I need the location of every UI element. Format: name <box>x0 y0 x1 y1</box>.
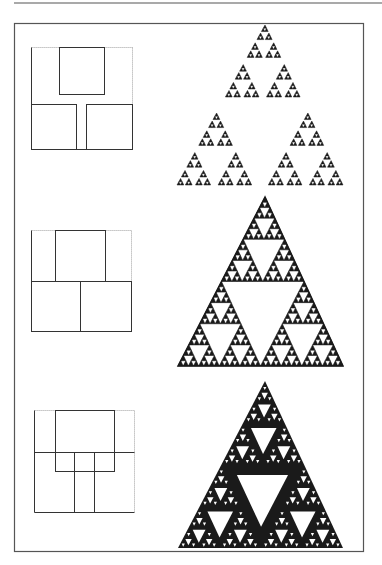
sierpinski-cell <box>218 182 221 185</box>
sierpinski-cell <box>278 73 281 76</box>
sierpinski-cell <box>255 46 258 49</box>
sierpinski-cell <box>275 170 278 173</box>
sierpinski-cell <box>281 361 286 366</box>
sierpinski-cell <box>333 361 338 366</box>
sierpinski-cell <box>209 124 212 127</box>
sierpinski-cell <box>323 340 328 345</box>
sierpinski-cell <box>317 361 322 366</box>
sierpinski-cell <box>282 318 287 323</box>
sierpinski-cell <box>338 178 341 181</box>
sierpinski-cell <box>188 361 193 366</box>
sierpinski-cell <box>290 303 295 308</box>
sierpinski-cell <box>268 276 273 281</box>
sierpinski-cell <box>269 36 272 39</box>
sierpinski-cell <box>255 271 260 276</box>
sierpinski-cell <box>312 350 317 355</box>
sierpinski-cell <box>266 350 271 355</box>
sierpinski-cell <box>238 255 243 260</box>
sierpinski-cell <box>228 178 231 181</box>
sierpinski-cell <box>278 276 283 281</box>
sierpinski-cell <box>313 340 318 345</box>
sierpinski-cell <box>241 174 244 177</box>
sierpinski-cell <box>280 161 283 164</box>
sierpinski-cell <box>273 276 278 281</box>
sierpinski-cell <box>300 124 303 127</box>
sierpinski-cell <box>230 361 235 366</box>
sierpinski-cell <box>190 164 193 167</box>
sierpinski-cell <box>274 234 279 239</box>
sierpinski-cell <box>263 355 268 360</box>
sierpinski-cell <box>269 234 274 239</box>
sierpinski-cell <box>221 182 224 185</box>
sierpinski-cell <box>320 142 323 145</box>
sierpinski-cell <box>200 174 203 177</box>
sierpinski-cell <box>293 170 296 173</box>
sierpinski-cell <box>306 313 311 318</box>
sierpinski-cell <box>201 139 204 142</box>
sierpinski-cell <box>219 361 224 366</box>
row-3-ifs-square-diagram <box>35 411 135 513</box>
sierpinski-cell <box>215 318 220 323</box>
sierpinski-cell <box>244 76 247 79</box>
sierpinski-cell <box>269 54 272 57</box>
sierpinski-cell <box>277 329 282 334</box>
sierpinski-cell <box>265 28 268 31</box>
sierpinski-cell <box>247 276 252 281</box>
sierpinski-cell <box>272 182 275 185</box>
map-rectangle-2 <box>32 105 77 150</box>
sierpinski-cell <box>229 142 232 145</box>
sierpinski-cell <box>213 116 216 119</box>
sierpinski-cell <box>254 90 257 93</box>
sierpinski-cell <box>287 340 292 345</box>
sierpinski-cell <box>183 170 186 173</box>
sierpinski-cell <box>283 65 286 68</box>
sierpinski-cell <box>290 142 293 145</box>
sierpinski-cell <box>219 139 222 142</box>
sierpinski-cell <box>230 182 233 185</box>
sierpinski-cell <box>204 182 207 185</box>
map-rectangle-3 <box>81 282 132 332</box>
sierpinski-cell <box>230 350 235 355</box>
sierpinski-cell <box>191 355 196 360</box>
sierpinski-cell <box>296 131 299 134</box>
sierpinski-cell <box>237 182 240 185</box>
sierpinski-cell <box>310 121 313 124</box>
sierpinski-cell <box>247 54 250 57</box>
sierpinski-cell <box>199 340 204 345</box>
sierpinski-cell <box>290 164 293 167</box>
sierpinski-cell <box>177 182 180 185</box>
sierpinski-cell <box>234 153 237 156</box>
sierpinski-cell <box>233 313 238 318</box>
sierpinski-cell <box>288 94 291 97</box>
sierpinski-cell <box>296 292 301 297</box>
sierpinski-cell <box>298 318 303 323</box>
sierpinski-cell <box>308 308 313 313</box>
sierpinski-cell <box>318 182 321 185</box>
sierpinski-cell <box>231 164 234 167</box>
sierpinski-cell <box>189 350 194 355</box>
sierpinski-cell <box>238 178 241 181</box>
sierpinski-cell <box>322 361 327 366</box>
sierpinski-cell <box>268 266 273 271</box>
sierpinski-cell <box>209 139 212 142</box>
sierpinski-cell <box>230 340 235 345</box>
sierpinski-cell <box>249 51 252 54</box>
sierpinski-cell <box>235 271 240 276</box>
sierpinski-cell <box>279 255 284 260</box>
sierpinski-cell <box>308 116 311 119</box>
row-3-group <box>35 381 344 548</box>
sierpinski-cell <box>308 318 313 323</box>
sierpinski-cell <box>183 361 188 366</box>
sierpinski-cell <box>281 68 284 71</box>
sierpinski-cell <box>257 36 260 39</box>
sierpinski-cell <box>232 276 237 281</box>
sierpinski-cell <box>232 355 237 360</box>
sierpinski-cell <box>214 361 219 366</box>
sierpinski-cell <box>325 153 328 156</box>
sierpinski-cell <box>276 174 279 177</box>
sierpinski-cell <box>217 142 220 145</box>
sierpinski-cell <box>217 124 220 127</box>
sierpinski-cell <box>254 223 259 228</box>
sierpinski-cell <box>273 266 278 271</box>
sierpinski-cell <box>195 182 198 185</box>
